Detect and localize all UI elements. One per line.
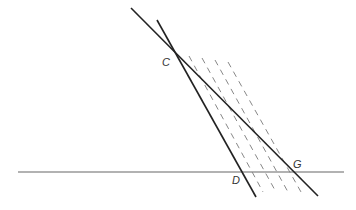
line-cg bbox=[131, 8, 318, 196]
point-label-c: C bbox=[162, 56, 170, 68]
point-label-g: G bbox=[293, 158, 302, 170]
point-label-d: D bbox=[232, 174, 240, 186]
line-cd bbox=[157, 20, 256, 197]
geometry-diagram: C D G bbox=[0, 0, 356, 210]
